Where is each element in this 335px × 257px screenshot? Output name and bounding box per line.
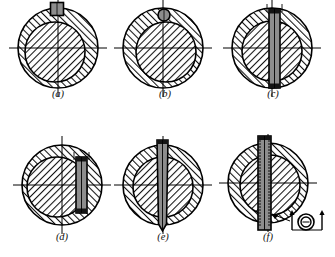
figure-f-caption: (f) bbox=[213, 231, 323, 243]
figure-a-caption: (a) bbox=[0, 88, 116, 100]
figure-d: (d) bbox=[7, 137, 117, 252]
figure-e-caption: (e) bbox=[108, 231, 218, 243]
figure-c: (c) bbox=[218, 0, 328, 110]
figure-b: (b) bbox=[110, 0, 220, 110]
figure-e: (e) bbox=[108, 137, 218, 252]
figure-f: (f) bbox=[213, 137, 323, 252]
figure-b-caption: (b) bbox=[110, 88, 220, 100]
figure-d-caption: (d) bbox=[7, 231, 117, 243]
figure-a: (a) bbox=[0, 0, 116, 110]
figure-sheet: (a) (b) (c) (d) (e) (f) bbox=[0, 0, 335, 257]
figure-c-caption: (c) bbox=[218, 88, 328, 100]
